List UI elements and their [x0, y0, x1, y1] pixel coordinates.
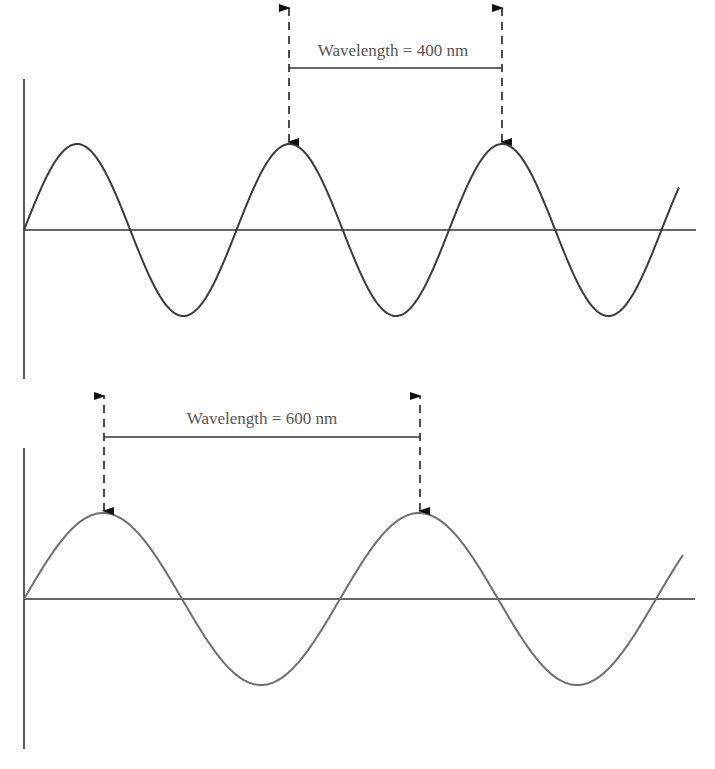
bottom-wavelength-label: Wavelength = 600 nm — [187, 409, 337, 428]
top-wavelength-label: Wavelength = 400 nm — [318, 41, 468, 60]
bottom-wave-panel: Wavelength = 600 nm — [24, 396, 695, 749]
bottom-wavelength-bracket: Wavelength = 600 nm — [104, 396, 420, 511]
wavelength-diagram: Wavelength = 400 nm Wavelength = 600 nm — [0, 0, 715, 769]
top-wave-panel: Wavelength = 400 nm — [24, 8, 696, 379]
top-wavelength-bracket: Wavelength = 400 nm — [289, 8, 502, 142]
